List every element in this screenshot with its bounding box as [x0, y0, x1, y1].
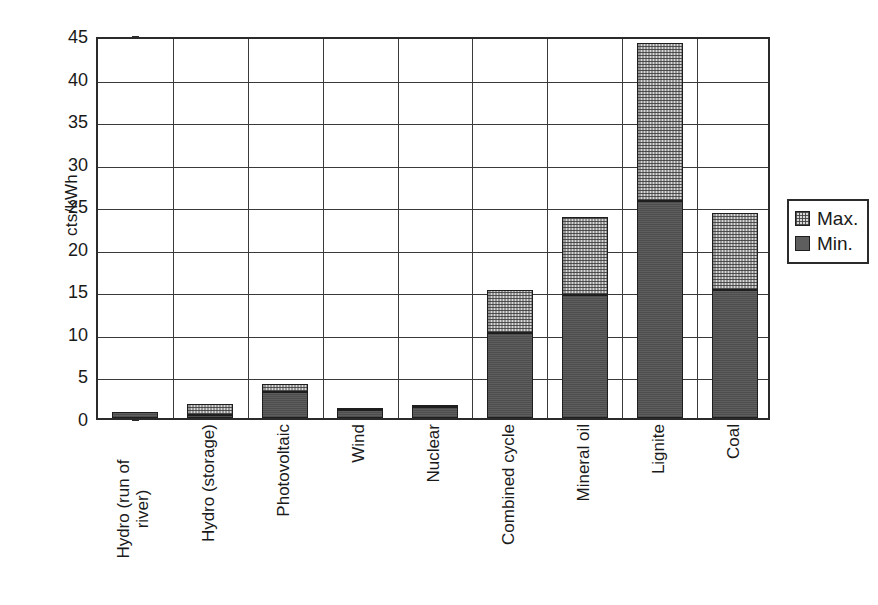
y-axis-tick-label: 15 [44, 283, 88, 301]
plot-area [96, 37, 770, 420]
bar-segment-max [187, 404, 233, 416]
bar-stack[interactable] [112, 412, 158, 418]
bar-stack[interactable] [562, 217, 608, 418]
bar-stack[interactable] [337, 408, 383, 419]
chart-figure: cts/kWh 051015202530354045 Hydro (run of… [0, 0, 878, 605]
legend-item-min: Min. [795, 231, 858, 256]
bar-column [323, 39, 398, 418]
bar-segment-min [187, 415, 233, 418]
bar-segment-max [262, 384, 308, 393]
y-axis-tick-label: 5 [44, 368, 88, 386]
bar-stack[interactable] [187, 404, 233, 418]
y-axis-tick-label: 10 [44, 326, 88, 344]
bar-segment-min [112, 412, 158, 418]
x-axis-category-label-text: Hydro (storage) [199, 424, 218, 542]
bar-column [622, 39, 697, 418]
bar-segment-min [337, 410, 383, 419]
bar-segment-min [637, 201, 683, 418]
bar-column [547, 39, 622, 418]
x-axis-category-label: Nuclear [396, 424, 471, 602]
bar-column [248, 39, 323, 418]
x-axis-category-label: Combined cycle [470, 424, 545, 602]
y-axis-tick-labels: 051015202530354045 [44, 37, 88, 420]
y-axis-tick-label: 35 [44, 113, 88, 131]
bar-segment-min [487, 333, 533, 418]
bar-stack[interactable] [637, 43, 683, 418]
bar-segment-min [262, 392, 308, 418]
x-axis-category-label: Hydro (run ofriver) [96, 424, 171, 602]
legend-label-min: Min. [817, 234, 853, 253]
bar-stack[interactable] [262, 384, 308, 418]
x-axis-category-label: Coal [695, 424, 770, 602]
chart-legend: Max. Min. [787, 199, 869, 264]
x-axis-category-label-text: Wind [349, 424, 368, 463]
y-axis-tick-label: 0 [44, 411, 88, 429]
x-axis-category-label-text: Mineral oil [573, 424, 592, 501]
y-axis-tick-label: 25 [44, 198, 88, 216]
y-axis-tick-label: 20 [44, 241, 88, 259]
bar-stack[interactable] [412, 405, 458, 418]
bar-column [472, 39, 547, 418]
bar-segment-min [712, 290, 758, 418]
checkered-light-swatch [795, 211, 810, 226]
x-axis-category-label: Mineral oil [545, 424, 620, 602]
bar-column [697, 39, 772, 418]
x-axis-category-label-text: Nuclear [423, 424, 442, 483]
bar-column [173, 39, 248, 418]
bar-column [98, 39, 173, 418]
x-axis-tick-labels: Hydro (run ofriver)Hydro (storage)Photov… [96, 424, 770, 602]
bar-column [398, 39, 473, 418]
bar-stack[interactable] [712, 213, 758, 418]
x-axis-category-label-text: Combined cycle [498, 424, 517, 545]
legend-item-max: Max. [795, 206, 858, 231]
bar-segment-min [562, 295, 608, 418]
bar-segment-max [562, 217, 608, 295]
bar-segment-max [637, 43, 683, 201]
x-axis-category-label-text: Lignite [648, 424, 667, 474]
bar-segment-max [712, 213, 758, 290]
solid-dark-swatch [795, 236, 810, 251]
x-axis-category-label: Wind [321, 424, 396, 602]
x-axis-category-label: Lignite [620, 424, 695, 602]
y-axis-tick-label: 30 [44, 156, 88, 174]
x-axis-category-label-text: Hydro (run ofriver) [114, 424, 152, 594]
y-axis-tick-label: 40 [44, 71, 88, 89]
bar-segment-min [412, 407, 458, 418]
x-axis-category-label: Hydro (storage) [171, 424, 246, 602]
y-axis-tick-label: 45 [44, 28, 88, 46]
legend-label-max: Max. [817, 209, 858, 228]
x-axis-category-label-text: Coal [723, 424, 742, 459]
x-axis-category-label-text: Photovoltaic [274, 424, 293, 517]
x-axis-category-label: Photovoltaic [246, 424, 321, 602]
bar-stack[interactable] [487, 290, 533, 418]
bar-segment-max [487, 290, 533, 333]
